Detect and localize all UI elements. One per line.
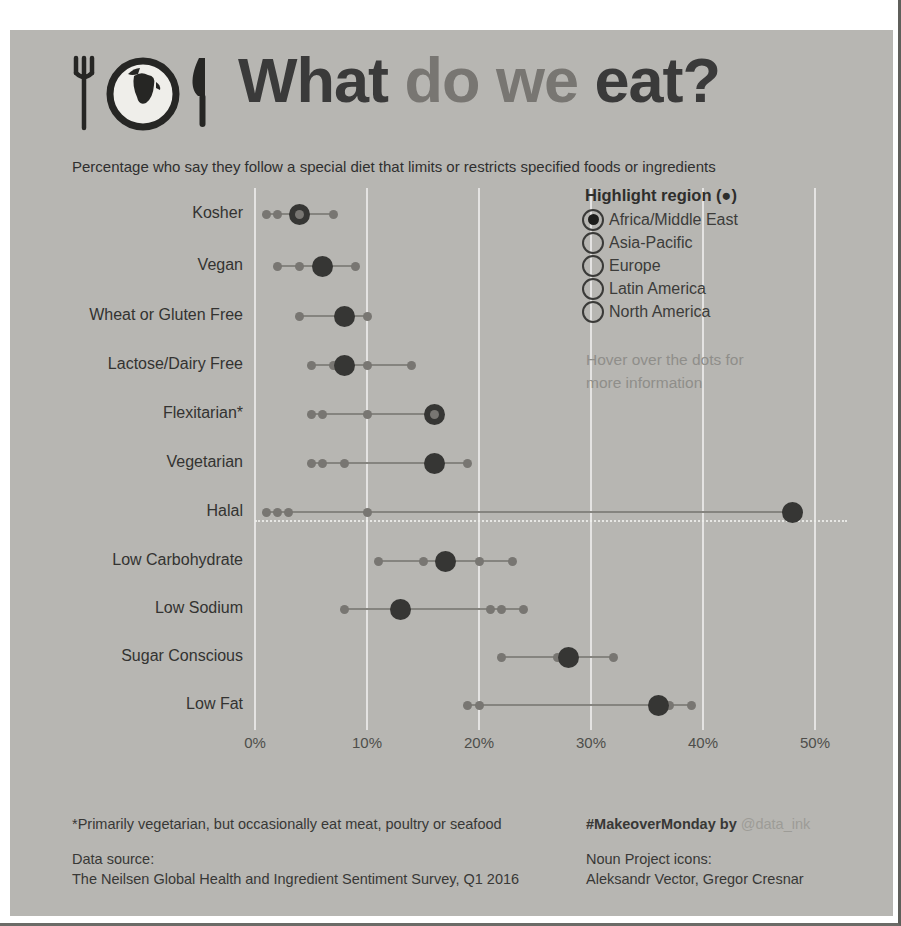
hover-instruction: Hover over the dots for more information [586,348,744,394]
region-dot[interactable] [609,653,618,662]
highlight-dot[interactable] [558,647,579,668]
gridline [478,188,480,730]
region-dot[interactable] [307,459,316,468]
row-line [311,364,412,366]
region-dot[interactable] [340,605,349,614]
region-dot[interactable] [687,701,696,710]
radio-unselected-icon[interactable] [582,255,604,277]
region-dot[interactable] [407,361,416,370]
gridline [702,188,704,730]
row-line [266,511,792,513]
region-dot[interactable] [475,557,484,566]
legend-option-label: Asia-Pacific [609,234,693,252]
icons-credit-label: Noun Project icons: [586,851,712,867]
axis-tick-label: 0% [225,734,285,751]
fork-globe-knife-icon [68,50,218,136]
legend-option-europe[interactable]: Europe [582,254,661,277]
radio-unselected-icon[interactable] [582,278,604,300]
radio-selected-icon[interactable] [582,209,604,231]
row-label: Halal [10,502,243,520]
highlight-dot[interactable] [648,695,669,716]
region-dot[interactable] [363,410,372,419]
makeover-prefix: #MakeoverMonday by [586,816,737,832]
report-page: What do we eat? Percentage who say they … [10,30,893,916]
region-dot[interactable] [273,508,282,517]
makeover-monday-credit: #MakeoverMonday by @data_ink [586,816,810,832]
region-dot[interactable] [273,210,282,219]
region-dot[interactable] [318,410,327,419]
row-label: Flexitarian* [10,404,243,422]
region-dot[interactable] [519,605,528,614]
region-dot[interactable] [497,653,506,662]
region-dot[interactable] [486,605,495,614]
row-label: Wheat or Gluten Free [10,306,243,324]
region-dot[interactable] [295,312,304,321]
region-dot[interactable] [307,410,316,419]
axis-tick-label: 30% [561,734,621,751]
legend-option-label: Latin America [609,280,706,298]
region-dot[interactable] [363,312,372,321]
legend-title: Highlight region (●) [585,186,737,205]
region-dot[interactable] [329,210,338,219]
overlap-dot[interactable] [430,410,439,419]
region-dot[interactable] [262,508,271,517]
axis-tick-label: 20% [449,734,509,751]
region-dot[interactable] [351,262,360,271]
highlight-dot[interactable] [334,355,355,376]
row-label: Low Sodium [10,599,243,617]
twitter-handle[interactable]: @data_ink [741,816,811,832]
legend-option-asia-pacific[interactable]: Asia-Pacific [582,231,693,254]
region-dot[interactable] [363,508,372,517]
row-label: Kosher [10,204,243,222]
region-dot[interactable] [307,361,316,370]
region-dot[interactable] [262,210,271,219]
region-dot[interactable] [363,361,372,370]
region-dot[interactable] [318,459,327,468]
data-source-label: Data source: [72,851,154,867]
legend-option-africa-middle-east[interactable]: Africa/Middle East [582,208,738,231]
axis-tick-label: 40% [673,734,733,751]
axis-tick-label: 50% [785,734,845,751]
highlight-dot[interactable] [435,551,456,572]
chart-subtitle: Percentage who say they follow a special… [72,158,716,175]
region-dot[interactable] [295,262,304,271]
radio-unselected-icon[interactable] [582,301,604,323]
axis-tick-label: 10% [337,734,397,751]
highlight-dot[interactable] [424,453,445,474]
highlight-dot[interactable] [334,306,355,327]
row-label: Sugar Conscious [10,647,243,665]
overlap-dot[interactable] [295,210,304,219]
region-dot[interactable] [374,557,383,566]
region-dot[interactable] [284,508,293,517]
region-dot[interactable] [475,701,484,710]
data-source-value: The Neilsen Global Health and Ingredient… [72,871,519,887]
region-dot[interactable] [419,557,428,566]
highlight-dot[interactable] [390,599,411,620]
legend-option-north-america[interactable]: North America [582,300,710,323]
legend-option-label: Africa/Middle East [609,211,738,229]
highlight-dot[interactable] [782,502,803,523]
icons-credit-value: Aleksandr Vector, Gregor Cresnar [586,871,804,887]
region-dot[interactable] [497,605,506,614]
flexitarian-footnote: *Primarily vegetarian, but occasionally … [72,816,502,832]
title-do-we: do we [404,45,578,115]
region-dot[interactable] [463,459,472,468]
region-dot[interactable] [273,262,282,271]
region-dot[interactable] [340,459,349,468]
region-dot[interactable] [508,557,517,566]
hover-instruction-line2: more information [586,371,744,394]
region-dot[interactable] [463,701,472,710]
highlight-dot[interactable] [312,256,333,277]
row-label: Vegetarian [10,453,243,471]
legend-option-label: Europe [609,257,661,275]
radio-unselected-icon[interactable] [582,232,604,254]
gridline [254,188,256,730]
legend-option-latin-america[interactable]: Latin America [582,277,706,300]
row-label: Lactose/Dairy Free [10,355,243,373]
page-title: What do we eat? [238,44,720,116]
title-what: What [238,45,388,115]
row-line [311,413,434,415]
legend-option-label: North America [609,303,710,321]
title-eat: eat? [595,45,721,115]
row-label: Low Carbohydrate [10,551,243,569]
